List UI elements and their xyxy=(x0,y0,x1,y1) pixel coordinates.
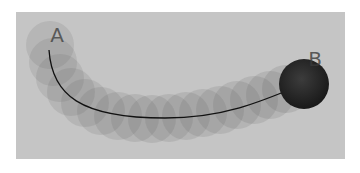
start-point-label: A xyxy=(50,23,64,47)
motion-trail-diagram: A B xyxy=(0,0,360,173)
end-point-label: B xyxy=(308,47,322,71)
diagram-canvas: A B xyxy=(0,0,360,173)
